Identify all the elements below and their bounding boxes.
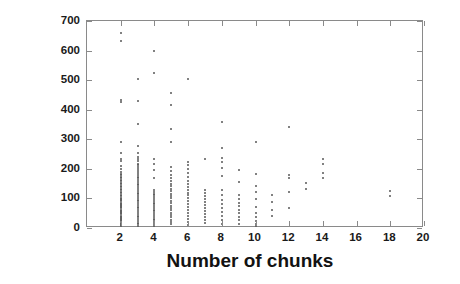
data-point <box>255 191 257 193</box>
data-point <box>322 172 324 174</box>
data-point <box>187 78 189 80</box>
x-tick-mark <box>154 221 155 226</box>
data-point <box>288 177 290 179</box>
data-point <box>204 198 206 200</box>
data-point <box>221 121 223 123</box>
x-tick-mark <box>222 221 223 226</box>
data-point <box>187 172 189 174</box>
data-point <box>153 177 155 179</box>
data-point <box>187 176 189 178</box>
data-point <box>238 198 240 200</box>
data-point <box>170 202 172 204</box>
y-tick-mark-right <box>417 228 422 229</box>
data-point <box>187 192 189 194</box>
x-tick-label: 4 <box>150 231 156 243</box>
x-tick-mark <box>188 221 189 226</box>
data-point <box>288 126 290 128</box>
data-point <box>170 170 172 172</box>
data-point <box>187 200 189 202</box>
data-point <box>221 211 223 213</box>
data-point <box>221 203 223 205</box>
plot-area <box>86 20 423 227</box>
x-tick-mark-top <box>289 21 290 26</box>
data-point <box>170 92 172 94</box>
data-point <box>204 195 206 197</box>
data-point <box>204 207 206 209</box>
data-point <box>389 190 391 192</box>
data-point <box>204 216 206 218</box>
data-point <box>187 186 189 188</box>
data-point <box>238 202 240 204</box>
data-point <box>221 175 223 177</box>
data-point <box>221 199 223 201</box>
data-point <box>187 164 189 166</box>
data-point <box>238 194 240 196</box>
data-point <box>187 218 189 220</box>
data-point <box>255 212 257 214</box>
x-tick-mark <box>289 221 290 226</box>
data-point <box>120 101 122 103</box>
x-tick-label: 20 <box>417 231 430 243</box>
data-point <box>255 198 257 200</box>
y-tick-mark <box>87 169 92 170</box>
data-point <box>137 100 139 102</box>
data-point <box>322 163 324 165</box>
x-axis-title: Number of chunks <box>75 250 425 272</box>
y-tick-label: 500 <box>46 73 80 85</box>
x-tick-mark <box>424 221 425 226</box>
x-tick-mark-top <box>323 21 324 26</box>
data-point <box>187 203 189 205</box>
data-point <box>120 168 122 170</box>
y-tick-mark <box>87 80 92 81</box>
data-point <box>322 158 324 160</box>
data-point <box>170 209 172 211</box>
data-point <box>255 185 257 187</box>
data-point <box>137 145 139 147</box>
scatter-chart-figure: Chunk size [words] 010020030040050060070… <box>0 0 460 284</box>
data-point <box>204 219 206 221</box>
x-tick-mark-top <box>121 21 122 26</box>
data-point <box>120 141 122 143</box>
data-point <box>238 219 240 221</box>
data-point <box>271 209 273 211</box>
data-point <box>120 32 122 34</box>
x-tick-mark-top <box>154 21 155 26</box>
data-point <box>187 161 189 163</box>
data-point <box>221 189 223 191</box>
y-tick-mark-right <box>417 110 422 111</box>
data-point <box>238 216 240 218</box>
data-point <box>221 215 223 217</box>
data-point <box>204 210 206 212</box>
x-tick-mark-top <box>357 21 358 26</box>
data-point <box>221 167 223 169</box>
data-point <box>238 209 240 211</box>
data-point <box>204 222 206 224</box>
data-point <box>170 177 172 179</box>
x-tick-mark-top <box>256 21 257 26</box>
y-tick-mark <box>87 110 92 111</box>
y-tick-label: 600 <box>46 44 80 56</box>
data-point <box>238 212 240 214</box>
data-point <box>170 104 172 106</box>
x-tick-label: 14 <box>315 231 328 243</box>
x-tick-mark <box>323 221 324 226</box>
data-point <box>204 201 206 203</box>
x-tick-label: 10 <box>248 231 261 243</box>
data-point <box>255 206 257 208</box>
y-tick-label: 700 <box>46 14 80 26</box>
y-tick-label: 0 <box>46 221 80 233</box>
data-point <box>187 215 189 217</box>
data-point <box>153 158 155 160</box>
data-point <box>238 181 240 183</box>
data-point <box>204 204 206 206</box>
data-point <box>153 50 155 52</box>
x-tick-label: 6 <box>184 231 190 243</box>
data-point <box>137 225 139 227</box>
x-tick-label: 2 <box>116 231 122 243</box>
y-tick-mark-right <box>417 139 422 140</box>
data-point <box>187 183 189 185</box>
data-point <box>288 191 290 193</box>
data-point <box>238 205 240 207</box>
data-point <box>204 158 206 160</box>
data-point <box>170 128 172 130</box>
